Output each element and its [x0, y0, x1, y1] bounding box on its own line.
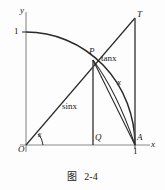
y-axis-label: y — [20, 6, 24, 15]
figure-container: y x 1 1 O P Q A T sinx tanx x x 图2-4 — [0, 0, 165, 190]
point-label-q: Q — [95, 133, 102, 142]
point-label-origin: O — [18, 145, 25, 154]
caption-number: 2-4 — [84, 171, 97, 182]
x-tick-label-1: 1 — [133, 147, 138, 156]
point-label-a: A — [137, 133, 143, 142]
figure-drawing — [0, 0, 165, 190]
point-label-t: T — [137, 10, 142, 19]
y-tick-label-1: 1 — [14, 27, 19, 36]
sin-label: sinx — [62, 102, 77, 111]
unit-circle-arc — [26, 32, 135, 145]
caption-label: 图 — [67, 171, 77, 182]
x-axis-label: x — [151, 140, 155, 149]
figure-caption: 图2-4 — [0, 168, 165, 183]
tan-label: tanx — [101, 54, 117, 63]
angle-label: x — [38, 131, 42, 139]
point-label-p: P — [89, 47, 95, 56]
arc-length-label: x — [117, 78, 121, 87]
